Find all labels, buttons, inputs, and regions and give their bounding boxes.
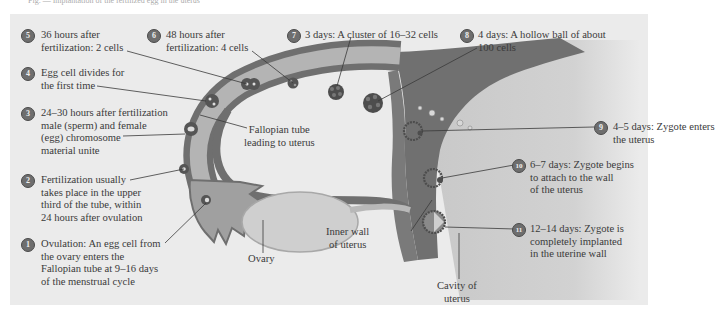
- inner-wall-line-2: of uterus: [326, 239, 369, 252]
- stage-6-number-badge: 6: [147, 29, 161, 43]
- stage-4-cell: [205, 94, 219, 108]
- stage-1-line-2: the ovary enters the: [41, 251, 160, 264]
- stage-1-label: Ovulation: An egg cell from the ovary en…: [41, 238, 160, 288]
- stage-11-line-1: 12–14 days: Zygote is: [530, 223, 624, 236]
- stage-4-number-badge: 4: [21, 67, 35, 81]
- stage-3-label: 24–30 hours after fertilization male (sp…: [41, 107, 168, 157]
- stage-10-line-2: to attach to the wall: [530, 172, 634, 185]
- stage-1-line-1: Ovulation: An egg cell from: [41, 238, 160, 251]
- stage-9-number-badge: 9: [594, 121, 608, 135]
- stage-10-line-1: 6–7 days: Zygote begins: [530, 159, 634, 172]
- stage-7-number-badge: 7: [287, 29, 301, 43]
- stage-2-number-badge: 2: [21, 174, 35, 188]
- stage-3-number-badge: 3: [21, 107, 35, 121]
- stage-1-line-4: of the menstrual cycle: [41, 276, 160, 289]
- stage-9-label: 4–5 days: Zygote enters the uterus: [613, 121, 715, 146]
- stage-10-line-3: of the uterus: [530, 184, 634, 197]
- stage-5-line-2: fertilization: 2 cells: [41, 42, 123, 55]
- stage-2-line-4: 24 hours after ovulation: [41, 212, 143, 225]
- stage-7-morula: [328, 84, 344, 100]
- stage-2-label: Fertilization usually takes place in the…: [41, 174, 143, 224]
- cavity-line-2: uterus: [437, 293, 477, 306]
- stage-3-cell: [184, 122, 198, 136]
- fallopian-tube-line-2: leading to uterus: [244, 137, 315, 150]
- cavity-line-1: Cavity of: [437, 280, 477, 293]
- stage-4-line-2: the first time: [41, 80, 124, 93]
- fallopian-tube-line-1: Fallopian tube: [244, 124, 315, 137]
- stage-6-line-2: fertilization: 4 cells: [166, 42, 248, 55]
- stage-5-label: 36 hours after fertilization: 2 cells: [41, 29, 123, 54]
- stage-11-label: 12–14 days: Zygote is completely implant…: [530, 223, 624, 261]
- stage-5-line-1: 36 hours after: [41, 29, 123, 42]
- stage-2-line-2: takes place in the upper: [41, 187, 143, 200]
- stage-8-blastocyst: [363, 93, 383, 113]
- stage-9-line-2: the uterus: [613, 134, 715, 147]
- stage-1-line-3: Fallopian tube at 9–16 days: [41, 263, 160, 276]
- stage-2-line-3: third of the tube, within: [41, 199, 143, 212]
- stage-8-number-badge: 8: [460, 29, 474, 43]
- stage-8-line-1: 4 days: A hollow ball of about: [478, 29, 606, 42]
- ovary-label: Ovary: [248, 253, 274, 266]
- stage-11-line-3: in the uterine wall: [530, 248, 624, 261]
- stage-6-label: 48 hours after fertilization: 4 cells: [166, 29, 248, 54]
- stage-8-line-2: 100 cells: [478, 42, 606, 55]
- stage-3-line-1: 24–30 hours after fertilization: [41, 107, 168, 120]
- stage-11-zygote: [423, 211, 445, 233]
- stage-5-number-badge: 5: [21, 29, 35, 43]
- stage-11-line-2: completely implanted: [530, 236, 624, 249]
- stage-8-label: 4 days: A hollow ball of about 100 cells: [478, 29, 606, 54]
- cavity-label: Cavity of uterus: [437, 280, 477, 305]
- stage-9-line-1: 4–5 days: Zygote enters: [613, 121, 715, 134]
- stage-3-line-4: material unite: [41, 145, 168, 158]
- stage-7-label: 3 days: A cluster of 16–32 cells: [305, 29, 438, 42]
- inner-wall-label: Inner wall of uterus: [326, 226, 369, 251]
- fallopian-tube-label: Fallopian tube leading to uterus: [244, 124, 315, 149]
- stage-3-line-3: (egg) chromosome: [41, 132, 168, 145]
- stage-10-label: 6–7 days: Zygote begins to attach to the…: [530, 159, 634, 197]
- stage-1-number-badge: 1: [21, 238, 35, 252]
- inner-wall-line-1: Inner wall: [326, 226, 369, 239]
- stage-3-line-2: male (sperm) and female: [41, 120, 168, 133]
- stage-4-label: Egg cell divides for the first time: [41, 67, 124, 92]
- stage-4-line-1: Egg cell divides for: [41, 67, 124, 80]
- stage-10-number-badge: 10: [512, 159, 526, 173]
- stage-11-number-badge: 11: [512, 223, 526, 237]
- stage-5-cell: [241, 78, 260, 90]
- stage-2-line-1: Fertilization usually: [41, 174, 143, 187]
- stage-6-line-1: 48 hours after: [166, 29, 248, 42]
- stage-7-line-1: 3 days: A cluster of 16–32 cells: [305, 29, 438, 42]
